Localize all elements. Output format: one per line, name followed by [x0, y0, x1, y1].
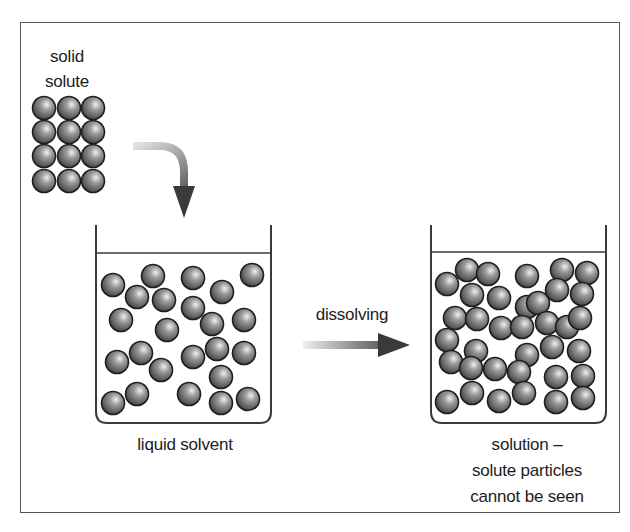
particle — [508, 361, 531, 384]
particle — [572, 365, 595, 388]
particle — [461, 284, 484, 307]
process-label: dissolving — [306, 302, 398, 327]
particle — [150, 359, 173, 382]
particle — [461, 382, 484, 405]
solution-particles — [436, 259, 599, 414]
particle — [182, 267, 205, 290]
particle — [444, 307, 467, 330]
particle — [513, 382, 536, 405]
particle — [211, 281, 234, 304]
particle — [82, 145, 105, 168]
particle — [488, 390, 511, 413]
particle — [201, 313, 224, 336]
particle — [571, 283, 594, 306]
particle — [569, 307, 592, 330]
solid-solute-label: solid solute — [27, 44, 107, 94]
particle — [82, 97, 105, 120]
particle — [488, 287, 511, 310]
particle — [460, 357, 483, 380]
particle — [156, 319, 179, 342]
particle — [110, 309, 133, 332]
particle — [33, 97, 56, 120]
particle — [82, 170, 105, 193]
particle — [541, 336, 564, 359]
particle — [210, 366, 233, 389]
particle — [233, 342, 256, 365]
particle — [477, 263, 500, 286]
particle — [58, 145, 81, 168]
particle — [436, 273, 459, 296]
particle — [576, 262, 599, 285]
particle — [82, 121, 105, 144]
particle — [511, 316, 534, 339]
beaker-liquid-solvent — [96, 225, 271, 423]
particle — [33, 121, 56, 144]
particle — [241, 264, 264, 287]
particle — [142, 265, 165, 288]
particle — [33, 145, 56, 168]
particle — [206, 338, 229, 361]
particle — [572, 387, 595, 410]
particle — [568, 340, 591, 363]
particle — [436, 391, 459, 414]
particle — [106, 351, 129, 374]
particle — [436, 329, 459, 352]
particle — [58, 170, 81, 193]
solid-solute-particles — [33, 97, 105, 193]
particle — [466, 308, 489, 331]
particle — [516, 265, 539, 288]
solution-label-line1: solution – — [457, 432, 597, 458]
curved-arrow-icon — [133, 146, 195, 218]
liquid-solvent-label: liquid solvent — [124, 432, 246, 457]
solution-label: solution – solute particles cannot be se… — [457, 432, 597, 510]
particle — [102, 392, 125, 415]
particle — [545, 366, 568, 389]
particle — [130, 342, 153, 365]
solution-label-line2: solute particles — [457, 458, 597, 484]
solid-solute-label-line1: solid — [27, 44, 107, 69]
beaker-solution — [431, 225, 606, 423]
particle — [536, 312, 559, 335]
particle — [484, 358, 507, 381]
solution-label-line3: cannot be seen — [457, 484, 597, 510]
particle — [178, 383, 201, 406]
particle — [126, 383, 149, 406]
particle — [456, 259, 479, 282]
particle — [237, 388, 260, 411]
particle — [182, 346, 205, 369]
particle — [58, 97, 81, 120]
particle — [210, 392, 233, 415]
particle — [545, 391, 568, 414]
particle — [102, 274, 125, 297]
particle — [233, 309, 256, 332]
particle — [58, 121, 81, 144]
particle — [551, 259, 574, 282]
solid-solute-label-line2: solute — [27, 69, 107, 94]
particle — [126, 286, 149, 309]
particle — [33, 170, 56, 193]
particle — [153, 289, 176, 312]
particle — [490, 317, 513, 340]
particle — [182, 297, 205, 320]
solvent-particles — [102, 264, 264, 415]
dissolving-arrow-icon — [303, 333, 410, 357]
